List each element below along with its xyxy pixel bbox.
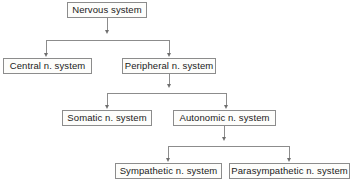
arrowhead-peripheral-trunk (167, 84, 171, 88)
node-label: Autonomic n. system (174, 113, 274, 123)
node-somatic-n-system[interactable]: Somatic n. system (62, 110, 152, 126)
connector-split-bar-level1 (46, 40, 170, 41)
node-label: Peripheral n. system (120, 61, 219, 70)
node-autonomic-n-system[interactable]: Autonomic n. system (173, 110, 276, 126)
node-peripheral-n-system[interactable]: Peripheral n. system (122, 58, 216, 74)
arrowhead-sympathetic (166, 158, 170, 162)
connector-split-bar-level3 (168, 146, 290, 147)
connector-drop-peripheral (169, 40, 170, 54)
connector-split-bar-level2 (107, 93, 227, 94)
connector-drop-central (46, 40, 47, 54)
arrowhead-central (44, 53, 48, 57)
arrowhead-nervous-trunk (105, 30, 109, 34)
diagram-canvas: Nervous system Central n. system Periphe… (0, 0, 355, 186)
node-label: Somatic n. system (62, 113, 151, 123)
node-label: Nervous system (67, 5, 147, 15)
node-parasympathetic-n-system[interactable]: Parasympathetic n. system (229, 163, 350, 179)
node-label: Parasympathetic n. system (226, 166, 353, 176)
node-sympathetic-n-system[interactable]: Sympathetic n. system (115, 163, 222, 179)
arrowhead-somatic (105, 105, 109, 109)
arrowhead-autonomic-trunk (222, 137, 226, 141)
arrowhead-peripheral (167, 53, 171, 57)
node-central-n-system[interactable]: Central n. system (3, 58, 92, 74)
node-nervous-system[interactable]: Nervous system (67, 2, 147, 18)
node-label: Sympathetic n. system (115, 166, 223, 176)
arrowhead-autonomic (224, 105, 228, 109)
node-label: Central n. system (5, 61, 91, 70)
arrowhead-parasympathetic (287, 158, 291, 162)
